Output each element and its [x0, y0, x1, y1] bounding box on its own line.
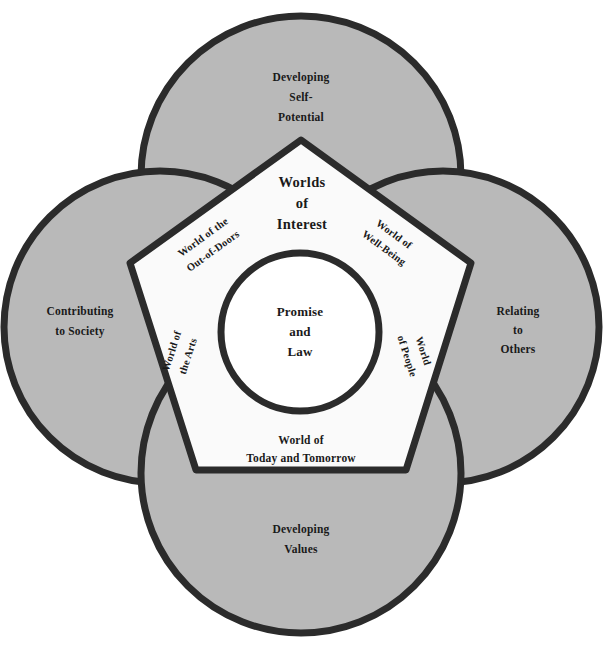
center-label-line-3: Law — [287, 344, 313, 359]
center-label-line-2: and — [289, 324, 311, 339]
edge-label-bottom-line-2: Today and Tomorrow — [246, 452, 356, 465]
lobe-label-top-line-1: Developing — [273, 71, 330, 84]
heading-line-3: Interest — [277, 216, 327, 232]
lobe-label-right-line-1: Relating — [496, 305, 539, 318]
worlds-of-interest-diagram: Developing Self- Potential Contributing … — [0, 0, 603, 648]
lobe-label-top-line-2: Self- — [289, 91, 312, 103]
diagram-root: Developing Self- Potential Contributing … — [0, 0, 603, 648]
lobe-label-top-line-3: Potential — [278, 111, 324, 123]
lobe-label-bottom-line-1: Developing — [273, 523, 330, 536]
lobe-label-right-line-2: to — [513, 324, 523, 336]
heading-line-1: Worlds — [279, 174, 326, 190]
lobe-label-right-line-3: Others — [500, 343, 535, 355]
edge-label-bottom-line-1: World of — [278, 434, 323, 446]
lobe-label-bottom-line-2: Values — [284, 543, 318, 555]
lobe-label-left-line-2: to Society — [55, 325, 105, 338]
lobe-label-left-line-1: Contributing — [47, 305, 114, 318]
center-label-line-1: Promise — [277, 304, 324, 319]
heading-line-2: of — [296, 195, 309, 211]
